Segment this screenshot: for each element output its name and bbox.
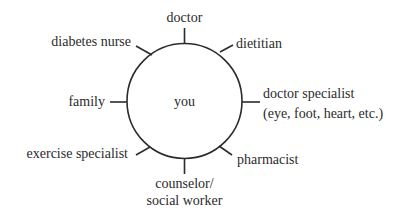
spoke-pharmacist (219, 146, 232, 155)
node-label-social-worker: social worker (147, 193, 223, 208)
node-label-family: family (68, 94, 105, 109)
care-team-diagram: you doctor dietitian doctor specialist (… (0, 0, 409, 220)
node-label-counselor: counselor/ (155, 176, 213, 191)
spoke-exercise-specialist (136, 147, 150, 155)
spoke-diabetes-nurse (136, 46, 152, 55)
node-label-doctor-specialist: doctor specialist (263, 86, 354, 101)
diagram-canvas: you doctor dietitian doctor specialist (… (0, 0, 409, 220)
node-label-exercise-specialist: exercise specialist (27, 146, 129, 161)
node-label-doctor: doctor (167, 10, 203, 25)
spoke-dietitian (220, 45, 233, 52)
center-label: you (174, 94, 195, 109)
node-label-pharmacist: pharmacist (237, 152, 299, 167)
node-label-diabetes-nurse: diabetes nurse (51, 34, 131, 49)
node-label-doctor-specialist-detail: (eye, foot, heart, etc.) (263, 106, 383, 122)
node-label-dietitian: dietitian (236, 36, 282, 51)
